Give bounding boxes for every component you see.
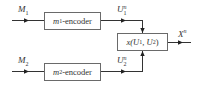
codeword-label-u2: Un2 xyxy=(117,55,127,67)
m2-encoder-box: m2-encoder xyxy=(44,63,101,81)
input-label-m2: M2 xyxy=(18,56,29,67)
input-label-m1: M1 xyxy=(18,5,29,16)
two-user-encoder-diagram: M1 M2 m1-encoder m2-encoder Un1 Un2 x (U… xyxy=(0,0,201,87)
combiner-function-box: x (U1, U2) xyxy=(117,33,168,51)
codeword-label-u1: Un1 xyxy=(117,4,127,16)
m1-encoder-box: m1-encoder xyxy=(44,12,101,30)
output-label-xn: Xn xyxy=(178,28,187,39)
